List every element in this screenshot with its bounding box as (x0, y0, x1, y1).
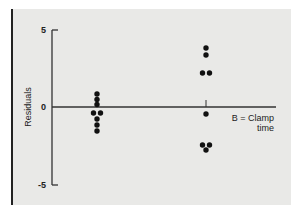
y-axis-label: Residuals (23, 87, 33, 127)
y-tick-label-5: 5 (41, 25, 46, 35)
residual-plot: 5 0 -5 Residuals B = Clamp time (0, 0, 291, 205)
x-label-line1: B = Clamp (232, 113, 274, 123)
y-tick-label-0: 0 (41, 102, 46, 112)
x-label-line2: time (257, 123, 274, 133)
series-left-points (91, 91, 103, 133)
series-right-points (200, 45, 212, 152)
y-tick-label-neg5: -5 (38, 180, 46, 190)
